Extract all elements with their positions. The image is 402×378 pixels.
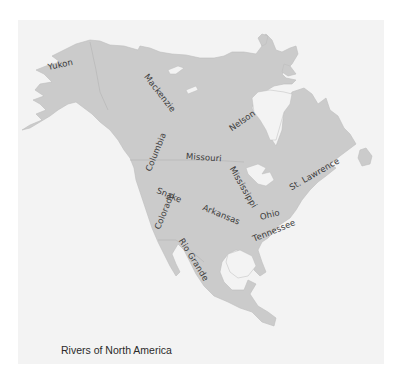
arctic-island — [282, 64, 296, 76]
map-title: Rivers of North America — [61, 344, 172, 356]
north-america-map — [0, 0, 402, 378]
newfoundland — [358, 148, 372, 166]
